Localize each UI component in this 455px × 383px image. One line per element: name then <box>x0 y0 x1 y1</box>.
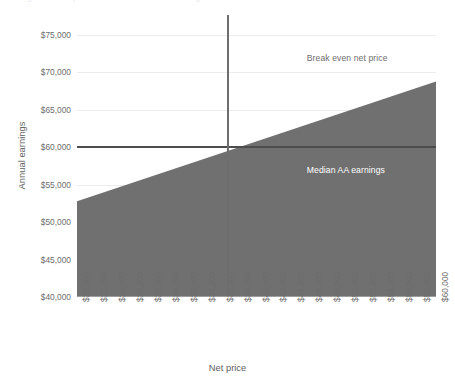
x-axis-tick-label: $42,000 <box>278 272 288 302</box>
x-axis-tick-label: $46,000 <box>314 272 324 302</box>
x-axis-tick-label: $58,000 <box>422 272 432 302</box>
x-axis-tick-label: $40,000 <box>261 272 271 302</box>
x-axis-title: Net price <box>0 362 455 373</box>
x-axis-tick-label: $28,000 <box>153 272 163 302</box>
x-axis-tick-label: $20,000 <box>81 272 91 302</box>
x-axis-tick-label: $50,000 <box>350 272 360 302</box>
x-axis-tick-label: $34,000 <box>207 272 217 302</box>
x-axis-tick-label: $22,000 <box>99 272 109 302</box>
x-axis-tick-label: $52,000 <box>368 272 378 302</box>
x-axis-tick-label: $48,000 <box>332 272 342 302</box>
x-axis-tick-label: $32,000 <box>189 272 199 302</box>
x-axis-tick-label: $38,000 <box>243 272 253 302</box>
x-axis-tick-label: $54,000 <box>386 272 396 302</box>
chart-figure: Figure: Net price versus annual earnings… <box>0 0 455 383</box>
x-axis-tick-label: $60,000 <box>440 272 450 302</box>
x-axis-tick-label: $36,000 <box>225 272 235 302</box>
x-axis-tick-label: $44,000 <box>296 272 306 302</box>
x-axis-tick-labels: $20,000$22,000$24,000$26,000$28,000$30,0… <box>0 0 455 383</box>
x-axis-tick-label: $30,000 <box>171 272 181 302</box>
x-axis-tick-label: $26,000 <box>135 272 145 302</box>
x-axis-tick-label: $56,000 <box>404 272 414 302</box>
x-axis-tick-label: $24,000 <box>117 272 127 302</box>
